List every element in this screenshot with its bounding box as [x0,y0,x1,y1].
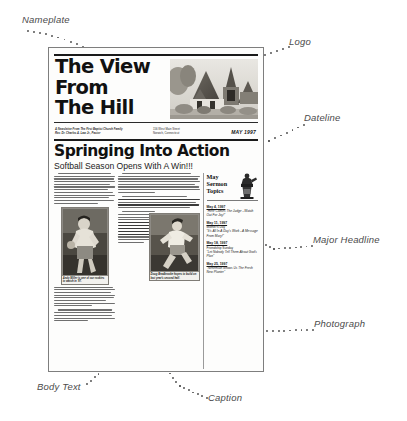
sidebar-heading-line2: Sermon [207,180,233,187]
sidebar-sermon-topics: May Sermon Topics May 4, 1997 "Here Come… [203,173,258,369]
paragraph [54,309,115,321]
dateline-address: 156 West Main Street Norwich, Connecticu… [153,128,214,135]
sermon-subtitle: "Let Nobody Tell Them About God's Plan" [207,250,258,258]
pulpit-icon [237,173,257,199]
pitcher-photograph [62,208,108,276]
major-headline: Springing Into Action [54,143,258,160]
dateline: A Newsletter From The First Baptist Chur… [54,122,258,141]
caption-pitcher: Andy Miller is one of our rookies to wat… [62,276,108,284]
dateline-date: MAY 1997 [214,129,258,135]
annotation-label-logo: Logo [289,36,311,47]
paragraph [118,196,199,208]
sidebar-item: May 4, 1997 "Here Comes The Judge - Watc… [207,205,258,218]
paragraph [54,287,115,307]
annotation-label-major-headline: Major Headline [313,234,380,245]
dateline-tagline: A Newsletter From The First Baptist Chur… [54,128,153,135]
sermon-title: "Nehemiah Shows Us The Fresh New Planter… [207,266,258,274]
subheadline: Softball Season Opens With A Win!!! [54,161,258,171]
sidebar-item: May 25, 1997 "Nehemiah Shows Us The Fres… [207,262,258,275]
article-columns: Andy Miller is one of our rookies to wat… [54,173,258,369]
newsletter-page: The View From The Hill [48,47,264,372]
photo-block-pitcher: Andy Miller is one of our rookies to wat… [61,207,109,285]
nameplate: The View From The Hill [54,54,258,122]
dateline-tagline-line2: Rev. Dr. Charles A. Law Jr., Pastor [55,132,153,136]
sidebar-heading-line1: May [207,173,233,180]
annotation-label-photograph: Photograph [314,318,365,329]
body-text-column-2: Doug Bradbrooke hopes to build on last y… [118,173,199,369]
annotation-label-nameplate: Nameplate [22,14,70,25]
annotation-label-dateline: Dateline [304,112,340,123]
dateline-address-line2: Norwich, Connecticut [153,132,214,136]
nameplate-title: The View From The Hill [55,57,175,119]
sermon-subtitle: "It's All In A Day's Work - A Message Fr… [207,229,258,237]
paragraph [54,173,115,204]
caption-runner: Doug Bradbrooke hopes to build on last y… [150,272,199,280]
body-text-column-1: Andy Miller is one of our rookies to wat… [54,173,115,369]
sermon-title: "Here Comes The Judge - Watch Out For Jo… [207,209,258,217]
annotation-label-caption: Caption [208,392,242,403]
sidebar-heading: May Sermon Topics [207,173,233,194]
sidebar-item: May 11, 1997 Mother's Day "It's All In A… [207,221,258,238]
runner-photograph [150,214,199,272]
paragraph [118,173,199,193]
church-logo-photo [170,59,258,119]
sidebar-divider [207,200,258,201]
sidebar-heading-line3: Topics [207,187,233,194]
nameplate-title-line3: The Hill [55,98,175,119]
nameplate-title-line1: The View [55,57,175,78]
sidebar-item: May 18, 1997 Friendship Sunday "Let Nobo… [207,241,258,258]
photo-block-runner: Doug Bradbrooke hopes to build on last y… [149,213,200,281]
nameplate-title-line2: From [55,78,175,99]
annotation-label-body-text: Body Text [37,381,81,392]
